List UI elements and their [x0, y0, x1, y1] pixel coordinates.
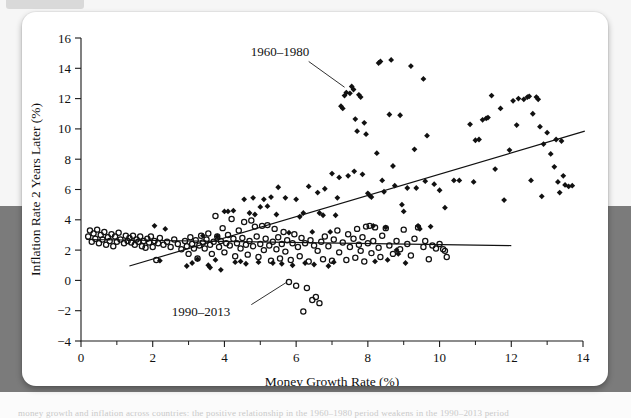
chart-canvas: −4−2024681012141602468101214Money Growth…	[22, 12, 608, 386]
annotation-leader-line	[309, 61, 345, 87]
data-point-filled-diamond	[315, 190, 321, 196]
data-point-filled-diamond	[309, 229, 315, 235]
data-point-filled-diamond	[322, 186, 328, 192]
y-axis-tick-label: 2	[65, 243, 72, 258]
series-1990-2013	[86, 213, 450, 314]
data-point-open-circle	[216, 244, 221, 249]
data-point-open-circle	[283, 249, 288, 254]
data-point-filled-diamond	[379, 178, 385, 184]
data-point-filled-diamond	[345, 173, 351, 179]
data-point-open-circle	[394, 238, 399, 243]
data-point-open-circle	[193, 238, 198, 243]
axis-lines	[81, 38, 583, 341]
data-point-filled-diamond	[421, 76, 427, 82]
data-point-open-circle	[168, 244, 173, 249]
data-point-filled-diamond	[268, 194, 274, 200]
data-point-filled-diamond	[279, 261, 285, 267]
data-point-filled-diamond	[243, 261, 249, 267]
data-point-filled-diamond	[390, 163, 396, 169]
data-point-open-circle	[299, 235, 304, 240]
data-point-filled-diamond	[555, 179, 561, 185]
data-point-open-circle	[294, 283, 299, 288]
data-point-filled-diamond	[152, 223, 158, 229]
data-point-open-circle	[340, 240, 345, 245]
data-point-open-circle	[353, 255, 358, 260]
data-point-open-circle	[281, 229, 286, 234]
data-point-filled-diamond	[238, 259, 244, 265]
data-point-open-circle	[290, 241, 295, 246]
data-point-open-circle	[213, 213, 218, 218]
data-point-open-circle	[295, 244, 300, 249]
data-point-open-circle	[320, 257, 325, 262]
page-root: −4−2024681012141602468101214Money Growth…	[0, 0, 631, 418]
data-point-open-circle	[421, 244, 426, 249]
data-point-filled-diamond	[282, 195, 288, 201]
data-point-open-circle	[360, 235, 365, 240]
data-point-open-circle	[401, 227, 406, 232]
data-point-filled-diamond	[218, 267, 224, 273]
data-point-filled-diamond	[539, 193, 545, 199]
data-point-filled-diamond	[431, 181, 437, 187]
data-point-open-circle	[371, 238, 376, 243]
data-point-open-circle	[390, 251, 395, 256]
data-point-filled-diamond	[408, 63, 414, 69]
data-point-filled-diamond	[334, 195, 340, 201]
data-point-filled-diamond	[363, 131, 369, 137]
data-point-open-circle	[116, 230, 121, 235]
data-point-filled-diamond	[471, 179, 477, 185]
data-point-open-circle	[337, 250, 342, 255]
data-point-open-circle	[202, 246, 207, 251]
top-edge-tab	[6, 0, 84, 9]
data-point-filled-diamond	[401, 209, 407, 215]
data-point-open-circle	[256, 254, 261, 259]
data-point-open-circle	[277, 256, 282, 261]
y-axis-tick-label: 6	[65, 182, 72, 197]
x-axis-tick-label: 8	[365, 350, 372, 365]
data-point-filled-diamond	[510, 98, 516, 104]
data-point-open-circle	[274, 247, 279, 252]
data-point-open-circle	[261, 248, 266, 253]
data-point-open-circle	[301, 309, 306, 314]
data-point-filled-diamond	[412, 146, 418, 152]
data-point-filled-diamond	[225, 209, 231, 215]
data-point-filled-diamond	[437, 187, 443, 193]
data-point-filled-diamond	[456, 178, 462, 184]
data-point-filled-diamond	[537, 124, 543, 130]
data-point-open-circle	[188, 235, 193, 240]
x-axis-tick-label: 14	[577, 350, 591, 365]
data-point-filled-diamond	[333, 212, 339, 218]
data-point-filled-diamond	[354, 128, 360, 134]
data-point-filled-diamond	[230, 208, 236, 214]
annotation-label: 1990–2013	[172, 304, 231, 319]
data-point-open-circle	[344, 257, 349, 262]
data-point-open-circle	[319, 239, 324, 244]
data-point-filled-diamond	[551, 164, 557, 170]
data-point-filled-diamond	[360, 171, 366, 177]
data-point-open-circle	[315, 248, 320, 253]
data-point-filled-diamond	[544, 130, 550, 136]
data-point-open-circle	[355, 226, 360, 231]
data-point-open-circle	[86, 234, 91, 239]
data-point-open-circle	[335, 228, 340, 233]
x-axis-tick-label: 12	[505, 350, 518, 365]
data-point-open-circle	[426, 257, 431, 262]
data-point-filled-diamond	[413, 185, 419, 191]
data-point-open-circle	[313, 294, 318, 299]
x-axis-tick-label: 2	[149, 350, 156, 365]
data-point-filled-diamond	[404, 185, 410, 191]
data-point-filled-diamond	[286, 230, 292, 236]
data-point-open-circle	[95, 227, 100, 232]
y-axis-tick-label: 12	[58, 91, 71, 106]
data-point-open-circle	[412, 236, 417, 241]
data-point-filled-diamond	[232, 259, 238, 265]
data-point-filled-diamond	[451, 178, 457, 184]
data-point-open-circle	[236, 228, 241, 233]
data-point-open-circle	[444, 254, 449, 259]
data-point-filled-diamond	[386, 112, 392, 118]
data-point-open-circle	[263, 236, 268, 241]
data-point-filled-diamond	[361, 120, 367, 126]
y-axis-tick-label: 14	[58, 61, 72, 76]
y-axis-tick-label: −4	[57, 334, 71, 349]
x-axis-title: Money Growth Rate (%)	[265, 374, 400, 386]
data-point-filled-diamond	[261, 196, 267, 202]
